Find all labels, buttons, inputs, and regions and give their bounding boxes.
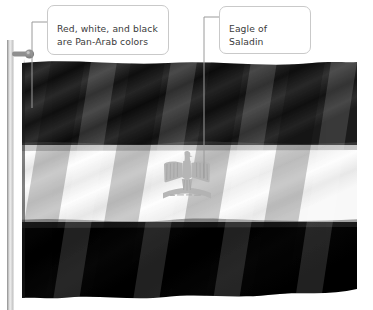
flagpole <box>8 40 14 310</box>
flag-annotation-figure: Red, white, and black are Pan-Arab color… <box>0 0 373 310</box>
callout-pan-arab-text: Red, white, and black are Pan-Arab color… <box>57 23 158 46</box>
callout-eagle-of-saladin: Eagle of Saladin <box>219 6 311 54</box>
flagpole-shadow <box>7 40 8 310</box>
flagpole-knob-icon <box>25 49 34 58</box>
flag-hoist-edge <box>22 63 25 298</box>
callout-pan-arab-colors: Red, white, and black are Pan-Arab color… <box>47 5 169 55</box>
flagpole-knob-highlight <box>27 51 30 54</box>
flag-body <box>10 55 362 307</box>
callout-eagle-text: Eagle of Saladin <box>229 23 267 46</box>
